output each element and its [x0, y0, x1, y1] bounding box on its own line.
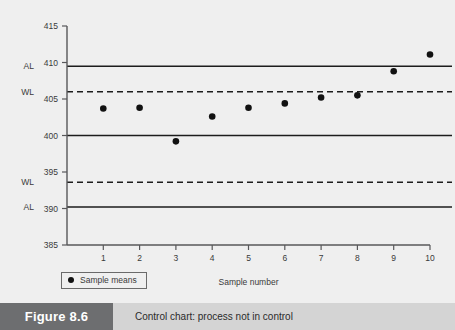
figure-caption-bar: Figure 8.6 Control chart: process not in… [0, 303, 455, 330]
x-tick-label: 2 [137, 253, 142, 263]
limit-tag-labels: ALWLWLAL [21, 61, 34, 212]
lower-warning-limit-tag: WL [21, 177, 34, 187]
sample-mean-point [390, 68, 397, 75]
sample-mean-point [354, 92, 361, 99]
x-axis-tick-marks [103, 245, 430, 250]
control-chart-plot: 385390395400405410415 ALWLWLAL 123456789… [0, 0, 455, 303]
figure-number-label: Figure 8.6 [25, 309, 88, 324]
y-axis-tick-marks [62, 26, 67, 245]
figure-number-block: Figure 8.6 [0, 303, 113, 330]
control-limit-lines [67, 66, 452, 207]
sample-mean-point [100, 105, 107, 112]
sample-mean-point [173, 138, 180, 145]
sample-mean-point [427, 51, 434, 58]
sample-mean-point [245, 104, 252, 111]
y-tick-label: 390 [44, 204, 58, 214]
figure-container: 385390395400405410415 ALWLWLAL 123456789… [0, 0, 455, 330]
y-axis-tick-labels: 385390395400405410415 [44, 21, 58, 250]
x-tick-label: 6 [282, 253, 287, 263]
upper-action-limit-tag: AL [24, 61, 35, 71]
y-tick-label: 385 [44, 240, 58, 250]
sample-mean-point [136, 104, 143, 111]
x-tick-label: 3 [174, 253, 179, 263]
x-axis-title: Sample number [218, 277, 278, 287]
legend-label: Sample means [80, 276, 137, 285]
figure-caption-text: Control chart: process not in control [113, 303, 293, 330]
y-tick-label: 395 [44, 167, 58, 177]
x-tick-label: 5 [246, 253, 251, 263]
x-tick-label: 7 [319, 253, 324, 263]
y-tick-label: 410 [44, 58, 58, 68]
x-tick-label: 8 [355, 253, 360, 263]
x-axis-tick-labels: 12345678910 [101, 253, 435, 263]
upper-warning-limit-tag: WL [21, 87, 34, 97]
y-tick-label: 400 [44, 131, 58, 141]
y-tick-label: 405 [44, 94, 58, 104]
lower-action-limit-tag: AL [24, 202, 35, 212]
chart-panel: 385390395400405410415 ALWLWLAL 123456789… [0, 0, 455, 303]
sample-mean-point [318, 94, 325, 101]
x-tick-label: 9 [391, 253, 396, 263]
sample-mean-point [209, 113, 216, 120]
x-tick-label: 4 [210, 253, 215, 263]
legend-marker-icon [68, 277, 74, 283]
y-tick-label: 415 [44, 21, 58, 31]
x-tick-label: 10 [425, 253, 435, 263]
x-tick-label: 1 [101, 253, 106, 263]
chart-legend: Sample means [61, 272, 147, 289]
sample-mean-points [100, 51, 433, 144]
sample-mean-point [282, 100, 289, 107]
